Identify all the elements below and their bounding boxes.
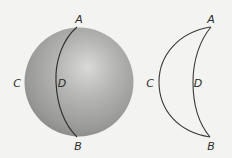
lune-label-b: B [207,141,215,152]
diagram-canvas: A B C D A B C D [0,0,232,158]
sphere [25,27,134,137]
sphere-label-b: B [74,141,82,152]
lune-label-c: C [146,78,154,89]
sphere-label-a: A [75,14,83,25]
sphere-label-c: C [13,78,21,89]
lune-label-a: A [207,14,215,25]
lune-outer-arc [159,27,211,137]
sphere-body [25,28,134,137]
lune-label-d: D [194,78,202,89]
lune [159,27,211,137]
sphere-label-d: D [58,78,66,89]
